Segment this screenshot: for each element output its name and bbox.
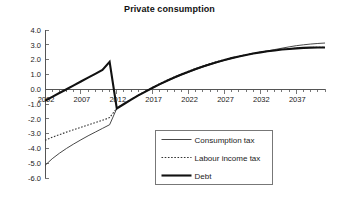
- x-tick-label: 2012: [109, 95, 126, 104]
- x-tick-label: 2027: [217, 95, 234, 104]
- y-tick-label: 3.0: [31, 41, 41, 50]
- y-tick-label: -3.0: [28, 129, 41, 138]
- x-tick-label: 2007: [74, 95, 91, 104]
- chart-container: Private consumption 4.03.02.01.00.0-1.0-…: [0, 0, 339, 201]
- series-line-labour-income-tax: [45, 47, 325, 140]
- y-tick-label: 1.0: [31, 70, 41, 79]
- x-tick-label: 2032: [253, 95, 270, 104]
- chart-plot-area: 4.03.02.01.00.0-1.0-2.0-3.0-4.0-5.0-6.0 …: [0, 0, 339, 201]
- legend-label: Consumption tax: [195, 136, 255, 145]
- y-tick-label: -6.0: [28, 174, 41, 183]
- y-tick-label: -4.0: [28, 144, 41, 153]
- x-axis-tick-labels: 20022007201220172022202720322037: [38, 95, 306, 104]
- x-tick-label: 2017: [145, 95, 162, 104]
- y-tick-label: 0.0: [31, 85, 41, 94]
- y-tick-label: 2.0: [31, 55, 41, 64]
- legend-label: Debt: [195, 172, 213, 181]
- y-axis-tick-labels: 4.03.02.01.00.0-1.0-2.0-3.0-4.0-5.0-6.0: [28, 26, 41, 183]
- x-tick-label: 2022: [181, 95, 198, 104]
- legend-label: Labour income tax: [195, 154, 261, 163]
- y-tick-label: 4.0: [31, 26, 41, 35]
- y-tick-label: -5.0: [28, 159, 41, 168]
- x-tick-label: 2037: [289, 95, 306, 104]
- y-tick-label: -2.0: [28, 115, 41, 124]
- legend: Consumption taxLabour income taxDebt: [156, 131, 273, 185]
